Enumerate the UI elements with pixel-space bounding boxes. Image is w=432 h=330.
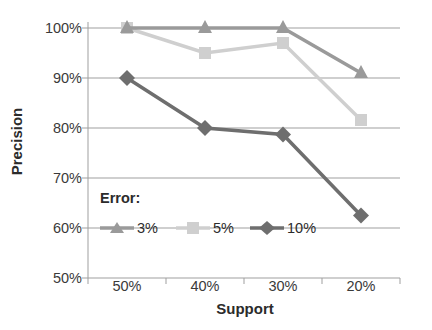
legend-label: 3% <box>137 220 158 236</box>
series-3-percent-line <box>127 28 361 73</box>
series-5-percent-line <box>127 28 361 120</box>
x-tick-label: 40% <box>166 278 244 294</box>
legend-label: 5% <box>213 220 234 236</box>
x-axis-title: Support <box>85 300 405 317</box>
precision-vs-support-line-chart: Precision 100% 90% 80% 70% 60% 50% <box>0 0 432 330</box>
chart-legend: Error: 3% 5% 10% <box>98 190 348 242</box>
legend-title: Error: <box>100 190 140 206</box>
x-tick-label: 30% <box>244 278 322 294</box>
x-tick-label: 20% <box>322 278 400 294</box>
x-tick-label: 50% <box>88 278 166 294</box>
data-point-marker <box>355 114 367 126</box>
legend-swatch-triangle-icon <box>100 220 134 236</box>
data-point-marker <box>199 47 211 59</box>
legend-label: 10% <box>287 220 316 236</box>
legend-swatch-diamond-icon <box>250 220 284 236</box>
series-5-percent <box>121 22 367 126</box>
legend-entry-3-percent: 3% <box>100 218 158 238</box>
legend-entry-10-percent: 10% <box>250 218 316 238</box>
x-axis-tick-labels: 50% 40% 30% 20% <box>88 278 400 300</box>
y-axis-ticks <box>82 28 88 278</box>
data-point-marker <box>277 37 289 49</box>
legend-entry-5-percent: 5% <box>176 218 234 238</box>
legend-swatch-square-icon <box>176 220 210 236</box>
